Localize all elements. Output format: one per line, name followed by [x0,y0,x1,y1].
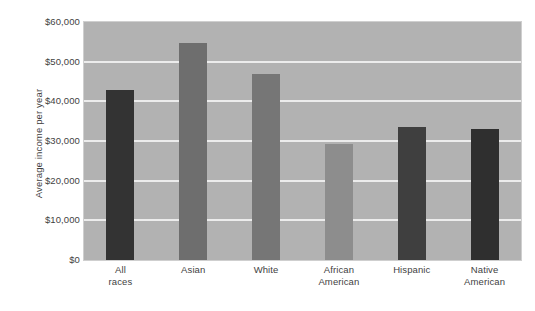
x-axis-tick-labels: AllracesAsianWhiteAfricanAmericanHispani… [84,264,521,308]
y-axis-tick-label: $50,000 [22,56,80,67]
y-axis-tick-label: $40,000 [22,95,80,106]
y-axis-tick-label: $30,000 [22,135,80,146]
y-axis-tick-label: $0 [22,254,80,265]
gridline [84,140,521,142]
bar [179,43,207,260]
bar [471,129,499,260]
bar [106,90,134,260]
y-axis-tick-labels: $0$10,000$20,000$30,000$40,000$50,000$60… [18,0,80,311]
bar-chart: Average income per year $0$10,000$20,000… [0,0,535,311]
y-axis-tick-label: $60,000 [22,16,80,27]
y-axis-tick-label: $20,000 [22,175,80,186]
gridline [84,180,521,182]
x-axis-tick-label-line: races [75,276,165,288]
bar [252,74,280,260]
x-axis-tick-label-line: American [440,276,530,288]
gridline [84,61,521,63]
plot-area [84,22,521,260]
gridline [84,219,521,221]
bar [398,127,426,260]
gridline [84,100,521,102]
y-axis-tick-label: $10,000 [22,214,80,225]
x-axis-tick-label-line: American [294,276,384,288]
x-axis-tick-label: NativeAmerican [440,264,530,287]
bar [325,144,353,260]
x-axis-tick-label-line: Native [440,264,530,276]
